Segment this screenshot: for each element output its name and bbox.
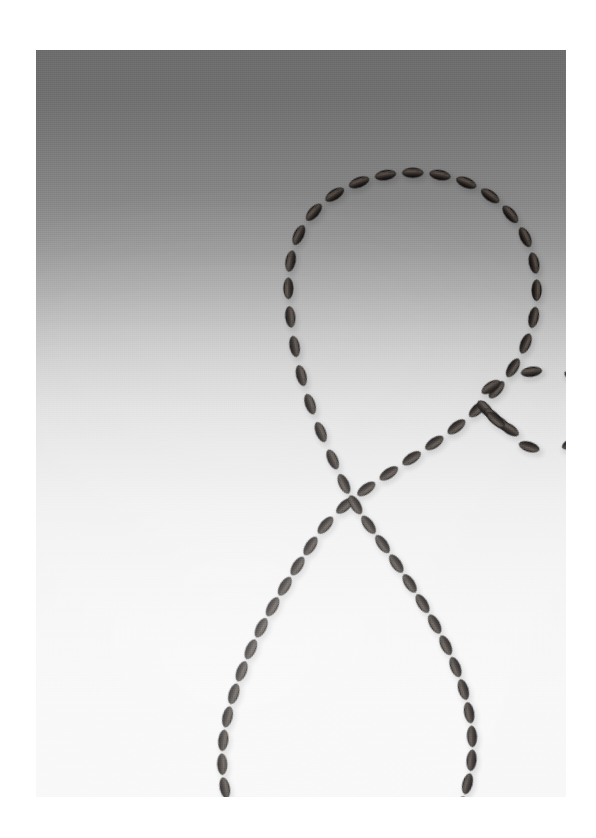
bead xyxy=(284,278,293,299)
necklace-strand xyxy=(217,168,566,797)
bead xyxy=(284,250,297,272)
bead xyxy=(463,702,476,724)
photograph xyxy=(36,50,566,797)
bead xyxy=(402,168,423,177)
bead xyxy=(288,335,301,357)
necklace-shadow xyxy=(216,167,566,797)
bead xyxy=(429,169,451,182)
bead xyxy=(521,366,543,378)
necklace-illustration xyxy=(36,50,566,797)
bead xyxy=(375,169,397,182)
bead-shadow xyxy=(560,366,566,387)
bead xyxy=(532,280,542,301)
page-root: Single strand of dark elongated ridged b… xyxy=(0,0,596,838)
